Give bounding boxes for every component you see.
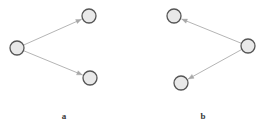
edge-line-b <box>188 50 241 79</box>
diagram-canvas <box>0 0 269 126</box>
target-node-top-a[interactable] <box>82 9 96 23</box>
nodes-layer <box>10 9 255 90</box>
edge-line-b <box>182 19 241 43</box>
source-node-a[interactable] <box>10 41 24 55</box>
panel-label-a: a <box>54 112 74 121</box>
edge-line-a <box>24 51 82 75</box>
target-node-top-b[interactable] <box>167 9 181 23</box>
arrowhead-b <box>188 74 194 78</box>
target-node-bottom-a[interactable] <box>83 71 97 85</box>
edge-line-a <box>24 19 81 45</box>
figure-root: a b <box>0 0 269 126</box>
arrowhead-b <box>182 19 188 23</box>
arrowhead-a <box>76 71 82 75</box>
source-node-b[interactable] <box>241 39 255 53</box>
panel-label-b: b <box>193 112 213 121</box>
arrowhead-a <box>76 19 82 23</box>
edges-layer <box>24 19 242 79</box>
target-node-bottom-b[interactable] <box>174 76 188 90</box>
